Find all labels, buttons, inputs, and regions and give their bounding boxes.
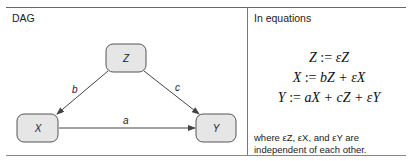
edge-z-x xyxy=(57,71,108,114)
equations-panel-title: In equations xyxy=(254,12,311,24)
edge-label-b: b xyxy=(72,84,78,95)
node-y: Y xyxy=(196,114,236,142)
svg-text:Z: Z xyxy=(122,53,130,64)
edge-z-y xyxy=(144,71,199,114)
edge-label-c: c xyxy=(175,82,180,93)
node-x: X xyxy=(17,114,58,142)
note-line-2: independent of each other. xyxy=(254,144,367,156)
svg-text:X: X xyxy=(34,123,42,134)
equation-y: Y := aX + cZ + εY xyxy=(250,90,408,106)
equation-x: X := bZ + εX xyxy=(250,70,408,86)
independence-note: where εZ, εX, and εY are independent of … xyxy=(254,132,367,156)
node-z: Z xyxy=(106,44,146,72)
edge-label-a: a xyxy=(123,115,129,126)
dag-diagram: b c a Z X Y xyxy=(0,0,250,161)
note-line-1: where εZ, εX, and εY are xyxy=(254,132,367,144)
equation-z: Z := εZ xyxy=(250,50,408,66)
